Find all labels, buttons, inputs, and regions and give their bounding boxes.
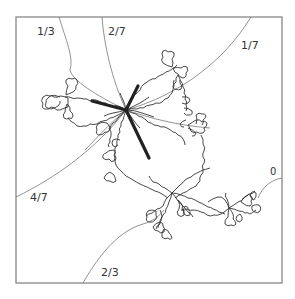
ray-label-2-3: 2/3 bbox=[101, 267, 119, 278]
ray-label-1-3: 1/3 bbox=[37, 26, 55, 37]
ray-label-1-7: 1/7 bbox=[241, 40, 259, 51]
ray-label-4-7: 4/7 bbox=[30, 192, 48, 203]
ray-label-2-7: 2/7 bbox=[108, 26, 126, 37]
plot-frame bbox=[16, 17, 282, 283]
ray-label-0: 0 bbox=[270, 167, 276, 177]
